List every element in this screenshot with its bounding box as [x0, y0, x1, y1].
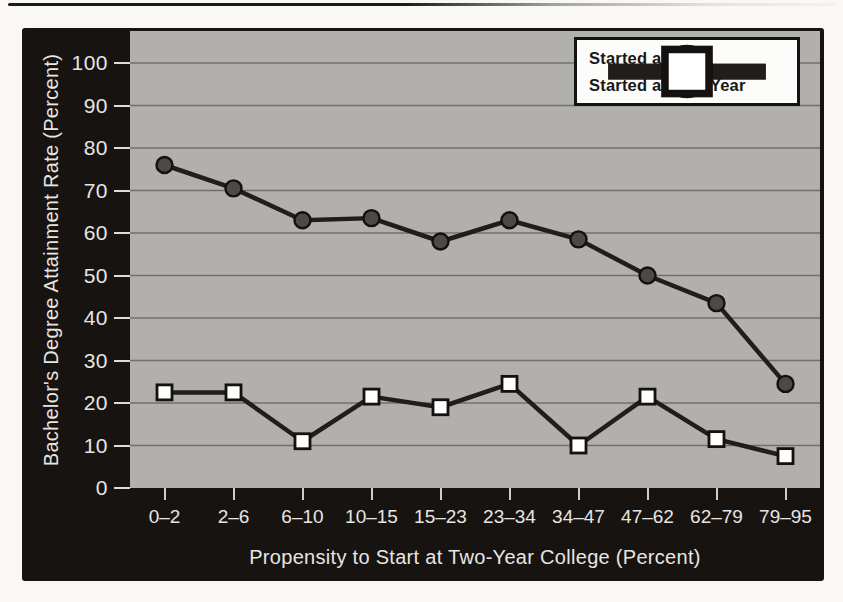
data-point-two-year — [709, 432, 724, 447]
y-tick-mark — [114, 62, 130, 64]
y-tick-mark — [114, 360, 130, 362]
y-tick-mark — [114, 232, 130, 234]
scanned-figure-page: Bachelor's Degree Attainment Rate (Perce… — [0, 0, 843, 602]
y-tick-label: 10 — [34, 433, 108, 459]
data-point-two-year — [502, 376, 517, 391]
data-point-two-year — [226, 385, 241, 400]
data-point-two-year — [433, 400, 448, 415]
x-tick-mark — [440, 488, 442, 500]
x-tick-mark — [371, 488, 373, 500]
y-tick-label: 70 — [34, 178, 108, 204]
data-point-two-year — [640, 389, 655, 404]
legend: Started at PWI Started at Two-Year — [574, 37, 800, 106]
legend-item-two-year: Started at Two-Year — [589, 73, 793, 97]
data-point-two-year — [571, 438, 586, 453]
x-tick-mark — [233, 488, 235, 500]
data-point-pwi — [778, 376, 794, 392]
data-point-pwi — [709, 295, 725, 311]
y-tick-mark — [114, 105, 130, 107]
y-tick-label: 90 — [34, 93, 108, 119]
x-tick-mark — [716, 488, 718, 500]
two-year-square-marker-icon — [577, 40, 797, 103]
data-point-pwi — [433, 234, 449, 250]
y-tick-mark — [114, 402, 130, 404]
y-tick-label: 0 — [34, 475, 108, 501]
y-tick-label: 60 — [34, 220, 108, 246]
data-point-pwi — [226, 180, 242, 196]
x-tick-mark — [509, 488, 511, 500]
y-tick-label: 20 — [34, 390, 108, 416]
x-tick-mark — [302, 488, 304, 500]
y-tick-mark — [114, 317, 130, 319]
data-point-two-year — [295, 434, 310, 449]
y-tick-mark — [114, 147, 130, 149]
data-point-two-year — [157, 385, 172, 400]
y-tick-mark — [114, 487, 130, 489]
x-axis-title: Propensity to Start at Two-Year College … — [130, 546, 820, 569]
y-tick-label: 50 — [34, 263, 108, 289]
y-tick-mark — [114, 275, 130, 277]
y-tick-label: 80 — [34, 135, 108, 161]
data-point-two-year — [778, 449, 793, 464]
y-tick-label: 30 — [34, 348, 108, 374]
x-tick-label: 79–95 — [741, 505, 831, 529]
data-point-pwi — [295, 212, 311, 228]
x-tick-mark — [164, 488, 166, 500]
x-tick-mark — [578, 488, 580, 500]
y-tick-label: 100 — [34, 50, 108, 76]
data-point-pwi — [571, 231, 587, 247]
figure-frame: Bachelor's Degree Attainment Rate (Perce… — [22, 28, 824, 581]
y-tick-label: 40 — [34, 305, 108, 331]
plot-area: Started at PWI Started at Two-Year — [130, 31, 820, 488]
y-tick-mark — [114, 190, 130, 192]
data-point-pwi — [364, 210, 380, 226]
data-point-pwi — [502, 212, 518, 228]
data-point-pwi — [640, 268, 656, 284]
data-point-pwi — [157, 157, 173, 173]
data-point-two-year — [364, 389, 379, 404]
x-tick-mark — [647, 488, 649, 500]
x-tick-mark — [785, 488, 787, 500]
series-line-pwi — [165, 165, 786, 384]
scan-artifact-line — [8, 3, 835, 6]
y-tick-mark — [114, 445, 130, 447]
